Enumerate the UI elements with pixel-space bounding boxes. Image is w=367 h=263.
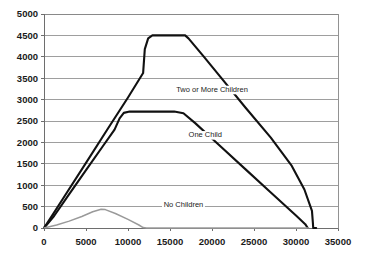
y-axis-label-1500: 1500 [17,158,38,169]
y-axis-label-4000: 4000 [17,51,38,62]
x-axis-tick-labels: 05000100001500020000250003000035000 [41,236,351,247]
y-axis-label-3000: 3000 [17,94,38,105]
y-axis-label-5000: 5000 [17,8,38,19]
x-axis-label-35000: 35000 [325,236,351,247]
series-line-no-children [44,209,309,228]
series-curves-group [44,35,316,228]
x-axis-label-15000: 15000 [157,236,183,247]
x-axis-label-0: 0 [41,236,46,247]
x-axis-label-30000: 30000 [283,236,309,247]
series-line-two-or-more-children [44,35,316,228]
x-axis-label-10000: 10000 [115,236,141,247]
y-axis-label-3500: 3500 [17,73,38,84]
y-axis-label-500: 500 [22,201,38,212]
series-annotation-one-child: One Child [189,130,222,139]
series-line-one-child [44,112,308,228]
x-axis-label-20000: 20000 [199,236,225,247]
y-axis-tick-labels: 0500100015002000250030003500400045005000 [17,8,38,233]
chart-container: 0500100015002000250030003500400045005000… [0,0,367,263]
x-axis-label-25000: 25000 [241,236,267,247]
y-axis-label-4500: 4500 [17,30,38,41]
line-chart: 0500100015002000250030003500400045005000… [0,0,367,263]
y-axis-label-1000: 1000 [17,180,38,191]
series-annotation-no-children: No Children [164,200,204,209]
y-axis-label-2000: 2000 [17,137,38,148]
y-axis-label-2500: 2500 [17,115,38,126]
gridlines-group [44,14,338,228]
y-axis-label-0: 0 [33,222,38,233]
series-annotation-two-or-more-children: Two or More Children [176,85,248,94]
series-annotations-group: Two or More ChildrenOne ChildNo Children [162,85,251,210]
x-axis-label-5000: 5000 [75,236,96,247]
